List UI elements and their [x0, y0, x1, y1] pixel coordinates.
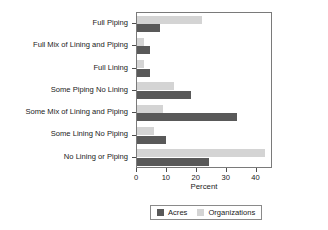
- legend-entry: Acres: [157, 208, 187, 217]
- bar-group: [137, 35, 271, 57]
- bar-organizations: [137, 60, 144, 68]
- bar-acres: [137, 136, 166, 144]
- x-tick: [256, 168, 257, 172]
- legend-swatch-icon: [157, 209, 164, 216]
- bar-organizations: [137, 38, 144, 46]
- category-axis: Full PipingFull Mix of Lining and Piping…: [0, 12, 132, 168]
- category-label: Full Piping: [93, 12, 128, 34]
- plot-area: [136, 12, 272, 168]
- bar-group: [137, 124, 271, 146]
- x-tick: [166, 168, 167, 172]
- bar-organizations: [137, 82, 174, 90]
- x-tick: [226, 168, 227, 172]
- bar-group: [137, 58, 271, 80]
- category-label: Some Lining No Piping: [51, 123, 128, 145]
- bar-group: [137, 147, 271, 169]
- bar-group: [137, 13, 271, 35]
- bar-acres: [137, 69, 150, 77]
- category-label: Full Mix of Lining and Piping: [33, 34, 128, 56]
- category-label: Some Piping No Lining: [51, 79, 128, 101]
- category-label: Full Lining: [93, 57, 128, 79]
- legend-label: Acres: [168, 208, 187, 217]
- bar-acres: [137, 46, 150, 54]
- bar-chart: Full PipingFull Mix of Lining and Piping…: [0, 0, 328, 230]
- bar-acres: [137, 91, 191, 99]
- x-tick-label: 0: [134, 173, 138, 182]
- x-axis-title: Percent: [136, 182, 272, 191]
- x-tick: [136, 168, 137, 172]
- legend-label: Organizations: [208, 208, 255, 217]
- bar-group: [137, 102, 271, 124]
- x-tick-label: 40: [251, 173, 259, 182]
- category-label: Some Mix of Lining and Piping: [25, 101, 128, 123]
- bar-acres: [137, 158, 209, 166]
- bar-group: [137, 80, 271, 102]
- bar-organizations: [137, 149, 265, 157]
- x-tick-label: 10: [162, 173, 170, 182]
- legend-entry: Organizations: [197, 208, 255, 217]
- bar-acres: [137, 24, 160, 32]
- category-label: No Lining or Piping: [64, 146, 128, 168]
- x-tick: [196, 168, 197, 172]
- legend-swatch-icon: [197, 209, 204, 216]
- bar-organizations: [137, 105, 163, 113]
- bar-organizations: [137, 16, 202, 24]
- bar-acres: [137, 113, 237, 121]
- x-tick-label: 20: [192, 173, 200, 182]
- bar-organizations: [137, 127, 154, 135]
- x-tick-label: 30: [221, 173, 229, 182]
- chart-legend: AcresOrganizations: [150, 205, 262, 220]
